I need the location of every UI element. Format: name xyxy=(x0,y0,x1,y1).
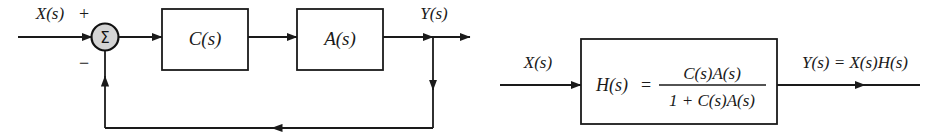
block-a-label: A(s) xyxy=(322,28,356,50)
diagram-canvas: X(s) Σ + − C(s) A(s) Y(s) xyxy=(0,0,937,137)
tf-input-label-x: X(s) xyxy=(523,53,553,72)
block-diagram-figure: X(s) Σ + − C(s) A(s) Y(s) xyxy=(0,0,937,137)
transfer-function-diagram: X(s) H(s) = C(s)A(s) 1 + C(s)A(s) Y(s) =… xyxy=(500,39,920,124)
tf-equals-sign: = xyxy=(641,75,651,95)
tf-output-label-y: Y(s) = X(s)H(s) xyxy=(802,53,908,72)
minus-sign-label: − xyxy=(79,53,89,73)
block-c-label: C(s) xyxy=(189,28,222,50)
tf-denominator: 1 + C(s)A(s) xyxy=(669,91,755,110)
plus-sign-label: + xyxy=(79,4,89,24)
feedback-loop-diagram: X(s) Σ + − C(s) A(s) Y(s) xyxy=(18,4,470,128)
tf-lhs-label: H(s) xyxy=(595,75,628,96)
output-label-y: Y(s) xyxy=(420,4,448,23)
input-label-x: X(s) xyxy=(35,4,65,23)
tf-numerator: C(s)A(s) xyxy=(683,64,741,83)
sigma-symbol: Σ xyxy=(100,29,109,47)
